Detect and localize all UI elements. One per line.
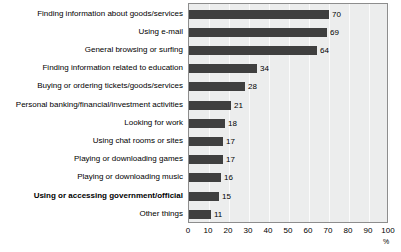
x-tick-label: 80 bbox=[344, 226, 353, 235]
gridline bbox=[369, 4, 370, 222]
x-tick-label: 40 bbox=[264, 226, 273, 235]
category-label: Playing or downloading games bbox=[0, 154, 183, 163]
x-tick-label: 70 bbox=[324, 226, 333, 235]
category-label: General browsing or surfing bbox=[0, 45, 183, 54]
category-axis: Finding information about goods/services… bbox=[0, 0, 187, 223]
category-label: Finding information about goods/services bbox=[0, 9, 183, 18]
bar bbox=[189, 64, 257, 73]
x-tick-label: 20 bbox=[224, 226, 233, 235]
x-tick-label: 100 bbox=[381, 226, 394, 235]
plot-area: 706964342821181717161511 bbox=[188, 3, 388, 223]
bar-value-label: 11 bbox=[214, 210, 222, 219]
gridline bbox=[249, 4, 250, 222]
bar-value-label: 16 bbox=[224, 173, 233, 182]
gridline bbox=[349, 4, 350, 222]
category-label: Buying or ordering tickets/goods/service… bbox=[0, 81, 183, 90]
x-tick-label: 30 bbox=[244, 226, 253, 235]
category-label: Using chat rooms or sites bbox=[0, 136, 183, 145]
bar-chart: Finding information about goods/services… bbox=[0, 0, 401, 252]
bar-value-label: 64 bbox=[320, 46, 329, 55]
bar bbox=[189, 10, 329, 19]
bar-value-label: 17 bbox=[226, 155, 235, 164]
bar bbox=[189, 210, 211, 219]
bar bbox=[189, 119, 225, 128]
category-label: Using e-mail bbox=[0, 27, 183, 36]
bar-value-label: 69 bbox=[330, 28, 339, 37]
bar bbox=[189, 28, 327, 37]
gridline bbox=[269, 4, 270, 222]
bar-value-label: 18 bbox=[228, 119, 237, 128]
x-tick-label: 0 bbox=[186, 226, 190, 235]
bar bbox=[189, 46, 317, 55]
bar bbox=[189, 155, 223, 164]
bar-value-label: 17 bbox=[226, 137, 235, 146]
value-axis: 0102030405060708090100 bbox=[188, 224, 388, 238]
gridline bbox=[329, 4, 330, 222]
bar-value-label: 15 bbox=[222, 192, 231, 201]
bar-value-label: 34 bbox=[260, 64, 269, 73]
gridline bbox=[389, 4, 390, 222]
gridline bbox=[289, 4, 290, 222]
bar bbox=[189, 82, 245, 91]
bar bbox=[189, 192, 219, 201]
bar bbox=[189, 173, 221, 182]
category-label: Finding information related to education bbox=[0, 63, 183, 72]
axis-unit-label: % bbox=[383, 238, 389, 246]
category-label: Looking for work bbox=[0, 118, 183, 127]
x-tick-label: 90 bbox=[364, 226, 373, 235]
x-tick-label: 10 bbox=[204, 226, 213, 235]
bar bbox=[189, 137, 223, 146]
bar-value-label: 70 bbox=[332, 10, 341, 19]
category-label: Personal banking/financial/investment ac… bbox=[0, 100, 183, 109]
x-tick-label: 50 bbox=[284, 226, 293, 235]
bar-value-label: 28 bbox=[248, 82, 257, 91]
gridline bbox=[209, 4, 210, 222]
gridline bbox=[309, 4, 310, 222]
gridline bbox=[229, 4, 230, 222]
bar-value-label: 21 bbox=[234, 101, 243, 110]
category-label: Playing or downloading music bbox=[0, 172, 183, 181]
category-label: Using or accessing government/official bbox=[0, 191, 183, 200]
category-label: Other things bbox=[0, 209, 183, 218]
x-tick-label: 60 bbox=[304, 226, 313, 235]
bar bbox=[189, 101, 231, 110]
